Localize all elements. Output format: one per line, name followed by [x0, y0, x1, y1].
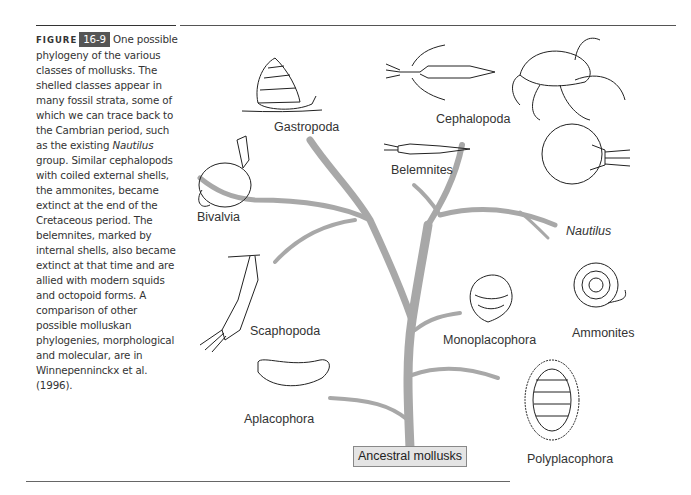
polyplacophora-illustration — [525, 360, 579, 440]
taxon-gastropoda: Gastropoda — [274, 120, 339, 134]
taxon-cephalopoda: Cephalopoda — [436, 112, 510, 126]
taxon-scaphopoda: Scaphopoda — [250, 324, 320, 338]
ammonite-illustration — [574, 263, 626, 307]
gastropoda-illustration — [242, 58, 322, 112]
aplacophora-illustration — [258, 360, 329, 386]
taxon-ammonites: Ammonites — [572, 326, 635, 340]
taxon-monoplacophora: Monoplacophora — [443, 333, 536, 347]
root-node-ancestral-mollusks: Ancestral mollusks — [353, 446, 467, 467]
squid-illustration — [386, 45, 495, 100]
octopus-illustration — [513, 38, 626, 120]
phylogeny-tree — [0, 0, 691, 495]
taxon-bivalvia: Bivalvia — [197, 210, 240, 224]
nautilus-illustration — [542, 124, 630, 184]
belemnites-illustration — [384, 144, 470, 154]
taxon-polyplacophora: Polyplacophora — [527, 452, 613, 466]
taxon-nautilus: Nautilus — [566, 224, 611, 238]
taxon-aplacophora: Aplacophora — [244, 412, 314, 426]
taxon-belemnites: Belemnites — [391, 163, 453, 177]
monoplacophora-illustration — [470, 275, 512, 322]
